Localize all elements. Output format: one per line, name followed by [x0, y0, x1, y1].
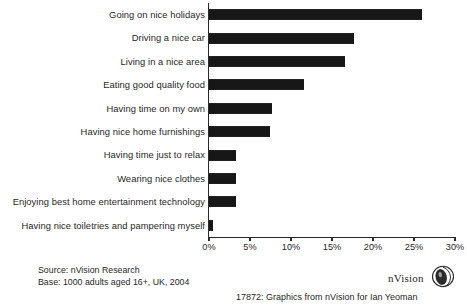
x-tick [290, 238, 291, 241]
bar-row: Having time on my own [0, 97, 467, 120]
category-label: Living in a nice area [121, 50, 205, 73]
bar-row: Wearing nice clothes [0, 167, 467, 190]
bar-row: Driving a nice car [0, 26, 467, 49]
x-tick-label: 15% [323, 242, 341, 252]
category-label: Having time just to relax [104, 143, 205, 166]
x-tick [331, 238, 332, 241]
bar [209, 220, 213, 231]
bar [209, 173, 236, 184]
bar-row: Enjoying best home entertainment technol… [0, 190, 467, 213]
bar [209, 56, 345, 67]
bar-row: Eating good quality food [0, 73, 467, 96]
nvision-egg-icon [428, 265, 458, 289]
x-tick-label: 5% [243, 242, 256, 252]
bar [209, 79, 304, 90]
x-tick-label: 0% [202, 242, 215, 252]
category-label: Driving a nice car [132, 26, 205, 49]
bar-chart: Going on nice holidaysDriving a nice car… [0, 0, 467, 258]
x-tick-label: 25% [405, 242, 423, 252]
category-label: Enjoying best home entertainment technol… [13, 190, 205, 213]
category-label: Going on nice holidays [109, 3, 205, 26]
bar-row: Having time just to relax [0, 143, 467, 166]
bar [209, 196, 236, 207]
x-tick [372, 238, 373, 241]
x-tick-label: 30% [446, 242, 464, 252]
bar-row: Having nice home furnishings [0, 120, 467, 143]
bar [209, 150, 236, 161]
x-tick [413, 238, 414, 241]
bar-row: Living in a nice area [0, 50, 467, 73]
bar [209, 33, 354, 44]
category-label: Having nice toiletries and pampering mys… [22, 214, 206, 237]
bar [209, 126, 270, 137]
x-tick-label: 10% [282, 242, 300, 252]
source-note: Source: nVision Research Base: 1000 adul… [38, 265, 189, 288]
category-label: Having time on my own [107, 97, 206, 120]
nvision-logo: nVision [388, 265, 464, 289]
category-label: Wearing nice clothes [117, 167, 205, 190]
bar [209, 103, 272, 114]
y-axis-line [208, 3, 209, 237]
category-label: Eating good quality food [103, 73, 205, 96]
x-tick [249, 238, 250, 241]
bar-row: Going on nice holidays [0, 3, 467, 26]
nvision-wordmark: nVision [388, 272, 424, 284]
x-tick-label: 20% [364, 242, 382, 252]
category-label: Having nice home furnishings [81, 120, 205, 143]
base-line: Base: 1000 adults aged 16+, UK, 2004 [38, 277, 189, 289]
bar [209, 9, 422, 20]
credit-line: 17872: Graphics from nVision for Ian Yeo… [236, 292, 417, 302]
x-tick [454, 238, 455, 241]
bar-row: Having nice toiletries and pampering mys… [0, 214, 467, 237]
source-line: Source: nVision Research [38, 265, 189, 277]
x-tick [208, 238, 209, 241]
